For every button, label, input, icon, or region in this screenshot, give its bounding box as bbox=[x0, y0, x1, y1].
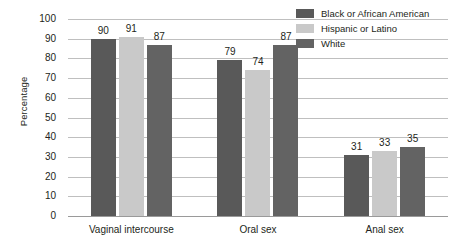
bar[interactable] bbox=[119, 37, 144, 216]
y-axis-tick-label: 10 bbox=[45, 191, 56, 201]
bar[interactable] bbox=[372, 151, 397, 216]
x-axis-category-labels: Vaginal intercourseOral sexAnal sex bbox=[68, 224, 448, 244]
legend-item[interactable]: White bbox=[296, 36, 461, 50]
legend-item[interactable]: Black or African American bbox=[296, 6, 461, 20]
x-axis-category-label: Vaginal intercourse bbox=[89, 224, 174, 236]
y-axis-tick-label: 30 bbox=[45, 152, 56, 162]
bar-chart: Percentage 1009080706050403020100 909187… bbox=[0, 0, 463, 251]
bar-value-label: 91 bbox=[126, 24, 137, 34]
legend: Black or African AmericanHispanic or Lat… bbox=[296, 6, 461, 51]
bar-value-label: 87 bbox=[154, 32, 165, 42]
y-axis-tick-labels: 1009080706050403020100 bbox=[0, 19, 62, 216]
bar[interactable] bbox=[400, 147, 425, 216]
y-axis-tick-label: 100 bbox=[39, 14, 56, 24]
bar-value-label: 79 bbox=[224, 47, 235, 57]
y-axis-tick-label: 80 bbox=[45, 53, 56, 63]
legend-swatch-hispanic-or-latino bbox=[296, 24, 314, 33]
bar-group: 909187 bbox=[68, 19, 195, 216]
bar[interactable] bbox=[245, 70, 270, 216]
legend-item-label: Black or African American bbox=[321, 8, 429, 19]
bar-slot: 74 bbox=[245, 19, 270, 216]
y-axis-tick-label: 20 bbox=[45, 172, 56, 182]
legend-swatch-white bbox=[296, 39, 314, 48]
y-axis-tick-label: 70 bbox=[45, 73, 56, 83]
bar[interactable] bbox=[217, 60, 242, 216]
y-axis-tick-label: 0 bbox=[50, 211, 56, 221]
x-axis-category-label: Oral sex bbox=[239, 224, 276, 236]
bar-slot: 79 bbox=[217, 19, 242, 216]
bar[interactable] bbox=[344, 155, 369, 216]
bar-value-label: 90 bbox=[98, 26, 109, 36]
legend-item[interactable]: Hispanic or Latino bbox=[296, 21, 461, 35]
bar-slot: 87 bbox=[273, 19, 298, 216]
bar-value-label: 74 bbox=[252, 57, 263, 67]
bar-slot: 90 bbox=[91, 19, 116, 216]
bar-value-label: 31 bbox=[351, 142, 362, 152]
bar-value-label: 33 bbox=[379, 138, 390, 148]
legend-item-label: Hispanic or Latino bbox=[321, 23, 397, 34]
bar[interactable] bbox=[91, 39, 116, 216]
y-axis-tick-label: 60 bbox=[45, 93, 56, 103]
bar-slot: 91 bbox=[119, 19, 144, 216]
legend-swatch-black-or-african-american bbox=[296, 9, 314, 18]
legend-item-label: White bbox=[321, 38, 345, 49]
x-axis-category-label: Anal sex bbox=[365, 224, 403, 236]
bar[interactable] bbox=[147, 45, 172, 216]
y-axis-tick-label: 40 bbox=[45, 132, 56, 142]
bar-value-label: 87 bbox=[280, 32, 291, 42]
bar-slot: 87 bbox=[147, 19, 172, 216]
bar[interactable] bbox=[273, 45, 298, 216]
y-axis-tick-label: 90 bbox=[45, 34, 56, 44]
bar-value-label: 35 bbox=[407, 134, 418, 144]
y-axis-tick-label: 50 bbox=[45, 113, 56, 123]
axis-baseline bbox=[68, 216, 448, 217]
